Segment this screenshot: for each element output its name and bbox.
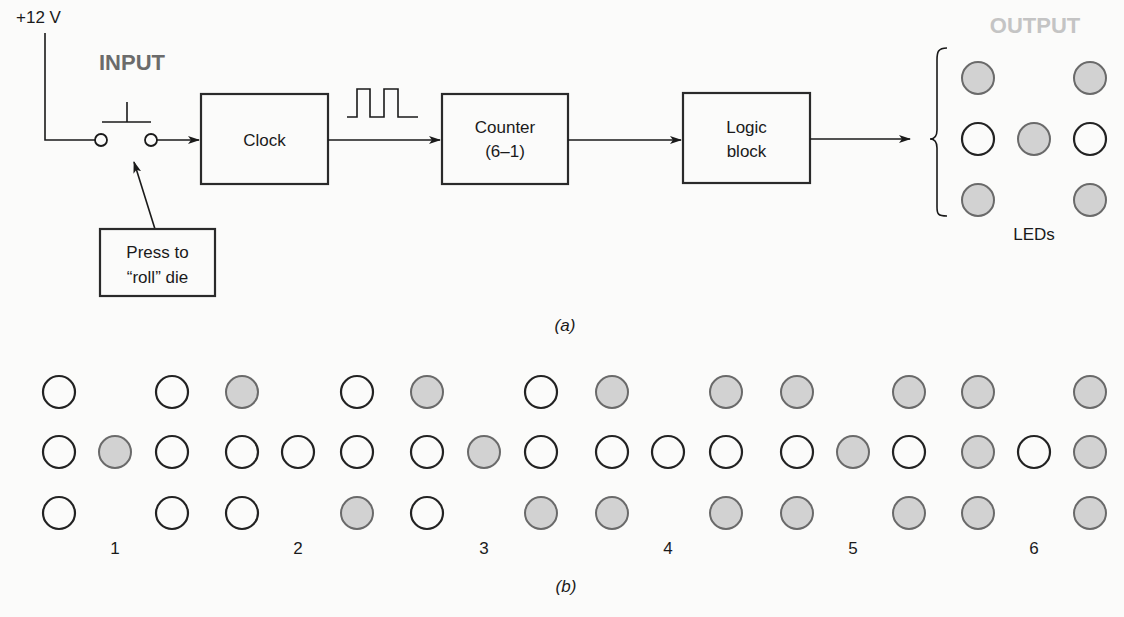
pattern-2-led-off-icon bbox=[341, 376, 373, 408]
pattern-6-led-on-icon bbox=[962, 376, 994, 408]
pattern-6-led-on-icon bbox=[1074, 436, 1106, 468]
block-diagram-a: +12 V INPUT Press to “roll” die Clock Co… bbox=[16, 8, 1106, 335]
input-heading: INPUT bbox=[99, 50, 166, 75]
caption-b: (b) bbox=[556, 577, 577, 596]
pattern-6-led-on-icon bbox=[962, 436, 994, 468]
logic-block-line1: Logic bbox=[726, 118, 767, 137]
pattern-3-led-on-icon bbox=[411, 376, 443, 408]
pattern-1-led-on-icon bbox=[99, 436, 131, 468]
pattern-4-led-off-icon bbox=[652, 436, 684, 468]
clock-block-label: Clock bbox=[243, 131, 286, 150]
supply-voltage-label: +12 V bbox=[16, 8, 62, 27]
press-note-line1: Press to bbox=[126, 243, 188, 262]
pattern-4-led-on-icon bbox=[710, 497, 742, 529]
pattern-5-led-on-icon bbox=[781, 497, 813, 529]
output-led-on-icon bbox=[1018, 123, 1050, 155]
pattern-grids bbox=[43, 376, 1106, 529]
pattern-label-6: 6 bbox=[1029, 539, 1038, 558]
pattern-2-led-off-icon bbox=[341, 436, 373, 468]
supply-wire bbox=[45, 33, 95, 140]
output-heading: OUTPUT bbox=[990, 13, 1081, 38]
pattern-4-led-on-icon bbox=[596, 497, 628, 529]
die-face-patterns-b: 1 2 3 4 5 6 (b) bbox=[43, 376, 1106, 596]
clock-waveform-icon bbox=[347, 89, 418, 117]
output-led-off-icon bbox=[1074, 123, 1106, 155]
pattern-3-led-off-icon bbox=[525, 376, 557, 408]
logic-block bbox=[683, 93, 810, 183]
pattern-2-led-off-icon bbox=[226, 436, 258, 468]
pattern-2-led-off-icon bbox=[282, 436, 314, 468]
electronic-die-diagram: +12 V INPUT Press to “roll” die Clock Co… bbox=[0, 0, 1124, 617]
output-led-on-icon bbox=[1074, 62, 1106, 94]
pattern-1-led-off-icon bbox=[156, 376, 188, 408]
pattern-2-led-on-icon bbox=[341, 497, 373, 529]
caption-a: (a) bbox=[555, 316, 576, 335]
pattern-3-led-on-icon bbox=[525, 497, 557, 529]
pattern-5-led-on-icon bbox=[837, 436, 869, 468]
pattern-6-led-off-icon bbox=[1018, 436, 1050, 468]
output-led-on-icon bbox=[1074, 184, 1106, 216]
counter-block-range: (6–1) bbox=[485, 142, 525, 161]
pattern-5-led-off-icon bbox=[893, 436, 925, 468]
pattern-label-1: 1 bbox=[110, 539, 119, 558]
pattern-1-led-off-icon bbox=[43, 376, 75, 408]
leds-label: LEDs bbox=[1013, 225, 1055, 244]
pattern-label-2: 2 bbox=[293, 539, 302, 558]
pattern-label-5: 5 bbox=[848, 539, 857, 558]
pattern-4-led-off-icon bbox=[710, 436, 742, 468]
pattern-1-led-off-icon bbox=[43, 436, 75, 468]
pattern-3-led-off-icon bbox=[411, 436, 443, 468]
logic-block-line2: block bbox=[727, 142, 767, 161]
pattern-3-led-off-icon bbox=[411, 497, 443, 529]
die-pattern-1 bbox=[43, 376, 188, 529]
pattern-6-led-on-icon bbox=[1074, 497, 1106, 529]
die-pattern-4 bbox=[596, 376, 742, 529]
pattern-4-led-off-icon bbox=[596, 436, 628, 468]
output-led-on-icon bbox=[962, 62, 994, 94]
press-note-line2: “roll” die bbox=[127, 268, 188, 287]
pattern-3-led-on-icon bbox=[468, 436, 500, 468]
pattern-3-led-off-icon bbox=[525, 436, 557, 468]
brace-icon bbox=[930, 48, 947, 216]
pattern-6-led-on-icon bbox=[1074, 376, 1106, 408]
counter-block bbox=[442, 94, 568, 184]
die-pattern-5 bbox=[781, 376, 925, 529]
pattern-label-3: 3 bbox=[479, 539, 488, 558]
die-pattern-6 bbox=[962, 376, 1106, 529]
pattern-5-led-off-icon bbox=[781, 436, 813, 468]
pattern-5-led-on-icon bbox=[893, 376, 925, 408]
pattern-4-led-on-icon bbox=[710, 376, 742, 408]
die-pattern-3 bbox=[411, 376, 557, 529]
pattern-6-led-on-icon bbox=[962, 497, 994, 529]
counter-block-label: Counter bbox=[475, 118, 536, 137]
pattern-4-led-on-icon bbox=[596, 376, 628, 408]
pattern-2-led-off-icon bbox=[226, 497, 258, 529]
output-led-on-icon bbox=[962, 184, 994, 216]
push-button-switch-icon[interactable] bbox=[95, 102, 157, 146]
pattern-1-led-off-icon bbox=[156, 436, 188, 468]
output-led-off-icon bbox=[962, 123, 994, 155]
output-led-grid bbox=[962, 62, 1106, 216]
pattern-5-led-on-icon bbox=[781, 376, 813, 408]
press-note-arrow bbox=[134, 162, 155, 229]
pattern-label-4: 4 bbox=[663, 539, 672, 558]
die-pattern-2 bbox=[226, 376, 373, 529]
pattern-1-led-off-icon bbox=[43, 497, 75, 529]
pattern-5-led-on-icon bbox=[893, 497, 925, 529]
pattern-2-led-on-icon bbox=[226, 376, 258, 408]
pattern-1-led-off-icon bbox=[156, 497, 188, 529]
